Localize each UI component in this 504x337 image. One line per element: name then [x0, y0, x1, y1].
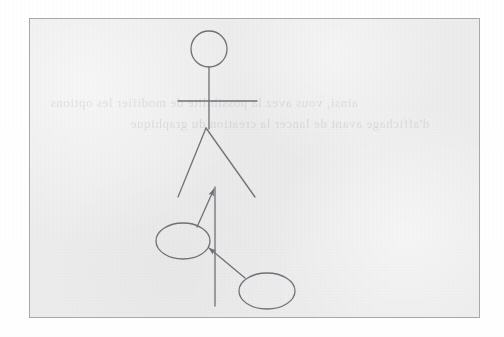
hand-drawn-diagram	[30, 19, 480, 318]
ellipse-sketch	[156, 187, 295, 309]
sketch-connector-up-arrow	[197, 189, 214, 227]
sketch-ellipse-right	[239, 273, 295, 309]
stick-figure	[178, 31, 257, 197]
stick-figure-head	[191, 31, 227, 67]
stick-figure-leg-right	[206, 128, 255, 197]
scanned-page: ainsi, vous avez la possibilite de modif…	[0, 0, 504, 337]
stick-figure-leg-left	[178, 128, 206, 197]
sketch-ellipse-left	[156, 223, 210, 259]
figure-frame: ainsi, vous avez la possibilite de modif…	[29, 18, 480, 318]
